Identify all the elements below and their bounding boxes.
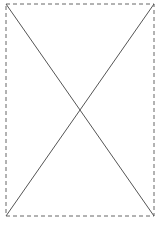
placeholder-graphic	[0, 0, 158, 225]
image-placeholder	[0, 0, 158, 225]
